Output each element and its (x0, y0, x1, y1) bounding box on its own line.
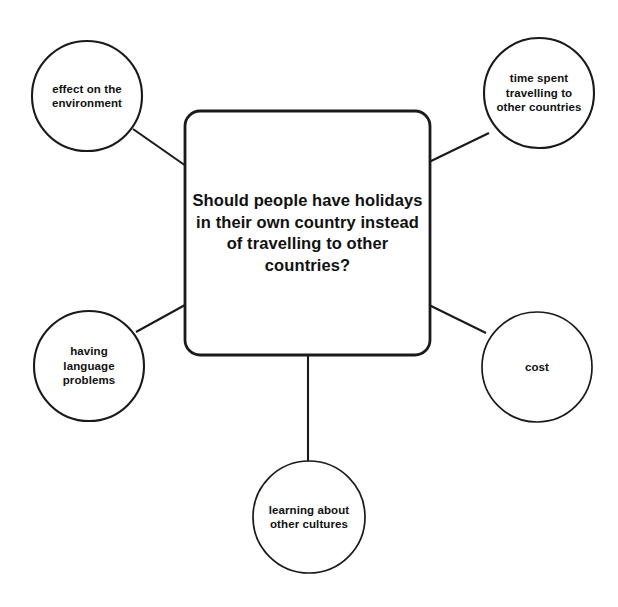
branch-shape-learning-cultures (253, 461, 365, 573)
connector-environment (133, 129, 186, 166)
connector-time-spent (429, 133, 489, 162)
branch-shape-environment (32, 41, 142, 151)
branch-shape-cost (482, 312, 592, 422)
central-node-shape (185, 111, 430, 355)
branch-shape-time-spent (484, 38, 594, 148)
mind-map-svg (0, 0, 618, 607)
diagram-canvas: Should people have holidays in their own… (0, 0, 618, 607)
connector-cost (429, 305, 486, 333)
connector-language-problems (136, 305, 185, 332)
branch-shape-language-problems (34, 311, 144, 421)
